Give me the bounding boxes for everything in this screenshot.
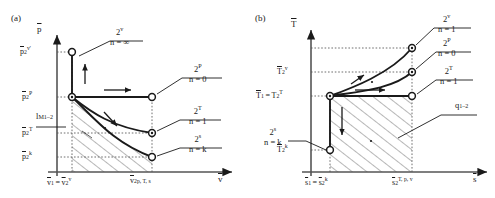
- panel-b-curve-label-2T-exp: n = 1: [440, 76, 458, 86]
- panel-a-curve-label-2T-state: 2T: [189, 105, 207, 116]
- panel-b-curve-label-2T: 2T n = 1: [440, 65, 458, 86]
- xtick-a0-sup2: v: [68, 176, 71, 182]
- xtick-a1-sub: 2p, T, s: [134, 178, 151, 184]
- panel-a-xtick-v2: v2p, T, s: [130, 176, 151, 185]
- panel-b-y-axis-symbol: T: [291, 19, 297, 29]
- xtick-b0-sub: 1: [308, 180, 311, 186]
- panel-a-x-axis-symbol: v: [218, 174, 223, 184]
- b-cl3-sup: s: [274, 126, 276, 132]
- panel-a-area-dot: [104, 127, 106, 129]
- panel-b-x-axis-label: s: [473, 174, 477, 184]
- xtick-b0-eq: =: [313, 178, 318, 187]
- b-ann-range: 1–2: [459, 103, 468, 109]
- panel-b-curve-label-2s-exp: n = k: [264, 137, 282, 147]
- panel-a-curve-label-2s-state: 2s: [189, 133, 207, 144]
- a-cl3-sup: s: [199, 133, 201, 139]
- xtick-b1-sup: T, p, v: [398, 176, 413, 182]
- panel-a-curve-label-2P-state: 2P: [189, 63, 207, 74]
- xtick-a0-eq: =: [55, 178, 60, 187]
- panel-a-y-axis-symbol: p: [37, 24, 42, 34]
- panel-b-tag: (b): [255, 13, 266, 23]
- panel-b-hatched-area: [320, 85, 430, 185]
- panel-a-curve-label-2v: 2v n = ∞: [110, 26, 129, 47]
- panel-a-curve-label-2s: 2s n = k: [189, 133, 207, 154]
- panel-b-dot-isobaric: [371, 81, 373, 83]
- panel-a-ytick-2P: p2P: [22, 90, 32, 101]
- b-cl0-sup: v: [447, 13, 450, 19]
- panel-a-curve-label-2T: 2T n = 1: [189, 105, 207, 126]
- panel-b-curve-label-2v-exp: n = 1: [438, 24, 456, 34]
- panel-b-curve-label-2P: 2P n = 0: [438, 37, 456, 58]
- panel-a-ytick-2v: p2v': [20, 45, 31, 56]
- panel-a-curve-label-2v-exp: n = ∞: [110, 37, 129, 47]
- ytick-a1-sup: P: [29, 90, 32, 96]
- panel-b-xtick-s1: s1 = s2k: [305, 176, 328, 187]
- panel-a-ytick-2T: p2T: [22, 126, 32, 137]
- panel-b-annotation-heat: q1–2: [455, 100, 468, 110]
- panel-b-curve-isobaric: [330, 72, 412, 96]
- ytick-b1-eq: =: [265, 91, 270, 100]
- ytick-a0-prime: ': [30, 45, 31, 51]
- panel-a-xtick-v1: v1 = v2v: [47, 176, 71, 187]
- panel-a-annotation-work: lM1–2: [36, 111, 53, 121]
- panel-b-curve-label-2s: 2s n = k: [264, 126, 282, 147]
- panel-a-y-axis-label: p: [37, 24, 42, 34]
- a-cl2-sup: T: [198, 105, 202, 111]
- panel-b-ytick-T1: T1 = T2T: [256, 89, 283, 100]
- panel-a-curve-label-2v-state: 2v: [110, 26, 129, 37]
- panel-b-area-dot: [370, 140, 372, 142]
- panel-a-curve-label-2P-exp: n = 0: [189, 74, 207, 84]
- thermodynamic-figure: (a) p v p2v' p2P p2T p2k v1 = v2v v2p, T…: [0, 0, 495, 198]
- panel-a-ytick-2k: p2k: [22, 150, 32, 161]
- a-cl1-sup: P: [198, 63, 201, 69]
- ytick-b1-sup2: T: [279, 89, 283, 95]
- a-ann-range: 1–2: [44, 114, 53, 120]
- a-cl0-sup: v: [120, 26, 123, 32]
- panel-a-x-axis-label: v: [218, 174, 223, 184]
- panel-b-x-axis-symbol: s: [473, 174, 477, 184]
- panel-b-curve-label-2T-state: 2T: [440, 65, 458, 76]
- panel-a-curve-label-2P: 2P n = 0: [189, 63, 207, 84]
- panel-b-curve-label-2s-state: 2s: [264, 126, 282, 137]
- xtick-a0-sub: 1: [51, 180, 54, 186]
- panel-a-curve-label-2s-exp: n = k: [189, 144, 207, 154]
- ytick-a2-sup: T: [29, 126, 33, 132]
- ytick-a3-sup: k: [29, 150, 32, 156]
- b-cl1-sup: P: [447, 37, 450, 43]
- panel-a-tag: (a): [11, 13, 21, 23]
- panel-b-ytick-2v: T2v: [277, 65, 288, 76]
- panel-b-y-axis-label: T: [291, 19, 297, 29]
- ytick-b0-sup: v: [285, 65, 288, 71]
- xtick-b0-sup2: k: [325, 176, 328, 182]
- b-cl2-sup: T: [449, 65, 453, 71]
- panel-b-curve-label-2P-exp: n = 0: [438, 48, 456, 58]
- panel-b-curve-label-2v: 2v n = 1: [438, 13, 456, 34]
- ytick-b2-sup: k: [285, 143, 288, 149]
- panel-b-curve-label-2v-state: 2v: [438, 13, 456, 24]
- diagram-canvas: [0, 0, 495, 198]
- panel-b-xtick-s2: s2T, p, v: [392, 176, 413, 187]
- panel-b-curve-label-2P-state: 2P: [438, 37, 456, 48]
- ytick-b1-sub: 1: [261, 93, 264, 99]
- panel-a-curve-label-2T-exp: n = 1: [189, 116, 207, 126]
